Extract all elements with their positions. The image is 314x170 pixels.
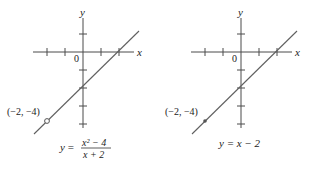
figure-canvas: y x 0 (−2, −4) y = x² − 4 x + 2 y x 0 xyxy=(0,0,314,170)
graph-right: y x 0 (−2, −4) y = x − 2 xyxy=(165,6,300,149)
origin-label: 0 xyxy=(74,53,79,64)
open-circle-hole xyxy=(45,119,50,124)
graph-line xyxy=(34,31,139,134)
equation-prefix: y = xyxy=(59,141,74,153)
graph-left: y x 0 (−2, −4) y = x² − 4 x + 2 xyxy=(7,6,142,160)
point-label: (−2, −4) xyxy=(165,106,198,118)
equation-numerator: x² − 4 xyxy=(81,137,106,148)
equation: y = x − 2 xyxy=(218,137,261,149)
origin-label: 0 xyxy=(232,53,237,64)
y-axis-label: y xyxy=(79,6,85,18)
x-axis-label: x xyxy=(294,46,300,58)
filled-point xyxy=(203,119,207,123)
x-axis-label: x xyxy=(136,46,142,58)
equation-denominator: x + 2 xyxy=(82,149,104,160)
y-axis-label: y xyxy=(237,6,243,18)
point-label: (−2, −4) xyxy=(7,106,40,118)
graph-line xyxy=(192,31,297,134)
